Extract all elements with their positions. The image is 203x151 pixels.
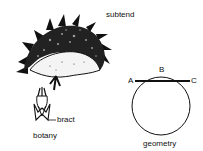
point-b-label: B xyxy=(159,65,164,74)
point-a-label: A xyxy=(128,76,133,85)
circle xyxy=(132,77,190,135)
geometry-caption: geometry xyxy=(143,139,176,148)
plant-illustration xyxy=(16,14,112,90)
illustration-canvas xyxy=(0,0,203,151)
point-c-label: C xyxy=(191,76,197,85)
geometry-illustration xyxy=(132,77,190,135)
title-label: subtend xyxy=(106,10,134,19)
bract-flower-illustration xyxy=(34,87,56,120)
bract-label: bract xyxy=(57,115,75,124)
botany-caption: botany xyxy=(33,131,57,140)
